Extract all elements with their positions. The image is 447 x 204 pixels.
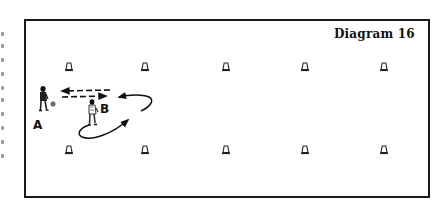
player-b-icon (88, 99, 98, 125)
ball-icon (51, 102, 55, 106)
cone-icon (65, 146, 73, 154)
cone-icon (222, 146, 230, 154)
cone-row-top (65, 63, 388, 71)
cone-icon (380, 146, 388, 154)
cone-icon (222, 63, 230, 71)
run-arrow-loop-upper (119, 95, 152, 111)
cone-icon (301, 146, 309, 154)
cone-icon (380, 63, 388, 71)
run-arrow-loop-lower (79, 120, 128, 138)
pass-arrow-right (62, 96, 106, 97)
cone-icon (141, 146, 149, 154)
player-b-label: B (100, 102, 109, 116)
pass-arrow-left (62, 90, 110, 91)
cone-row-bottom (65, 146, 388, 154)
player-a-label: A (33, 118, 43, 132)
cone-icon (301, 63, 309, 71)
drill-field: A B (0, 0, 447, 204)
cone-icon (65, 63, 73, 71)
player-a-icon (39, 86, 49, 111)
cone-icon (141, 63, 149, 71)
